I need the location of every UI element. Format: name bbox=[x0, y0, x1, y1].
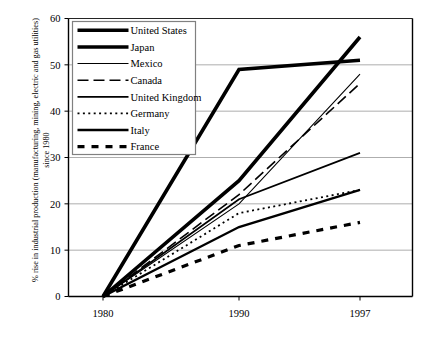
x-tick-label: 1980 bbox=[93, 308, 114, 319]
legend-label-france: France bbox=[131, 141, 160, 152]
x-tick-label: 1997 bbox=[350, 308, 371, 319]
y-tick-label: 60 bbox=[50, 13, 61, 24]
x-tick-label: 1990 bbox=[229, 308, 250, 319]
y-tick-label: 10 bbox=[50, 245, 61, 256]
y-tick-label: 40 bbox=[50, 106, 61, 117]
y-tick-label: 0 bbox=[55, 291, 60, 302]
chart-legend: United StatesJapanMexicoCanadaUnited Kin… bbox=[73, 22, 202, 155]
legend-label-germany: Germany bbox=[131, 108, 171, 119]
legend-label-mexico: Mexico bbox=[131, 58, 163, 69]
series-line-united-kingdom bbox=[103, 153, 360, 297]
y-axis-ticks: 0102030405060 bbox=[50, 13, 69, 302]
chart-container: % rise in industrial production (manufac… bbox=[0, 0, 429, 341]
series-line-germany bbox=[103, 190, 360, 297]
legend-label-japan: Japan bbox=[131, 42, 156, 53]
y-tick-label: 50 bbox=[50, 60, 61, 71]
x-axis-ticks: 198019901997 bbox=[93, 297, 371, 319]
y-tick-label: 30 bbox=[50, 152, 61, 163]
legend-label-united-states: United States bbox=[131, 25, 187, 36]
legend-label-united-kingdom: United Kingdom bbox=[131, 92, 202, 103]
legend-label-canada: Canada bbox=[131, 75, 163, 86]
series-line-italy bbox=[103, 190, 360, 297]
chart-plot-svg: 0102030405060 198019901997 United States… bbox=[0, 0, 429, 341]
y-tick-label: 20 bbox=[50, 199, 61, 210]
legend-label-italy: Italy bbox=[131, 125, 151, 136]
